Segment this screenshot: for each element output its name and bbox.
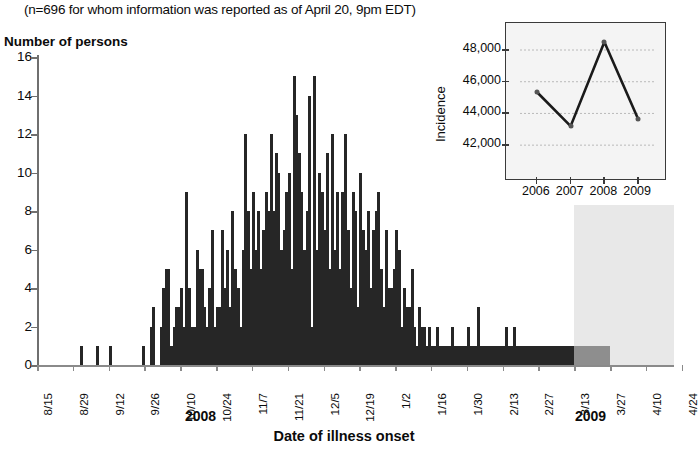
x-axis-tick-label: 9/12 — [114, 393, 126, 415]
x-axis-tick — [252, 365, 254, 371]
inset-y-tick — [502, 112, 509, 114]
inset-y-tick-label: 46,000 — [445, 73, 501, 87]
x-axis-tick-label: 12/5 — [329, 393, 341, 415]
inset-y-axis-title: Incidence — [433, 86, 448, 142]
x-axis-tick-label: 10/24 — [221, 393, 233, 422]
x-axis-tick — [37, 365, 39, 371]
year-label: 2008 — [185, 408, 216, 424]
inset-x-tick — [603, 177, 605, 184]
x-axis-tick — [395, 365, 397, 371]
inset-data-point — [602, 40, 607, 45]
inset-data-point — [534, 90, 539, 95]
inset-y-tick-label: 48,000 — [445, 41, 501, 55]
x-axis-tick — [324, 365, 326, 371]
bar — [109, 346, 112, 365]
x-axis-tick — [359, 365, 361, 371]
x-axis-tick-label: 1/30 — [472, 393, 484, 415]
bar — [80, 346, 83, 365]
x-axis-title: Date of illness onset — [0, 428, 688, 444]
x-axis-tick-label: 4/24 — [687, 393, 699, 415]
x-axis-tick — [431, 365, 433, 371]
x-axis-tick — [574, 365, 576, 371]
x-axis-tick — [538, 365, 540, 371]
x-axis-tick — [610, 365, 612, 371]
inset-y-tick — [502, 49, 509, 51]
x-axis-tick — [646, 365, 648, 371]
x-axis-tick-label: 2/13 — [508, 393, 520, 415]
x-axis-tick-label: 11/7 — [257, 393, 269, 415]
x-axis-line — [37, 365, 674, 367]
bar — [142, 346, 145, 365]
x-axis-tick — [180, 365, 182, 371]
inset-x-tick — [536, 177, 538, 184]
inset-x-tick — [637, 177, 639, 184]
inset-line-path — [506, 23, 664, 178]
inset-y-tick — [502, 144, 509, 146]
x-axis-tick — [144, 365, 146, 371]
x-axis-tick — [467, 365, 469, 371]
x-axis-tick-label: 3/27 — [615, 393, 627, 415]
x-axis-tick-label: 8/29 — [78, 393, 90, 415]
x-axis-tick-label: 9/26 — [149, 393, 161, 415]
inset-y-tick — [502, 81, 509, 83]
x-axis-tick — [216, 365, 218, 371]
inset-y-tick-label: 44,000 — [445, 104, 501, 118]
x-axis-tick-label: 2/27 — [543, 393, 555, 415]
bar — [308, 96, 311, 366]
x-axis-tick — [503, 365, 505, 371]
inset-x-tick-label: 2009 — [617, 184, 657, 198]
year-label: 2009 — [575, 408, 606, 424]
x-axis-tick-label: 1/2 — [400, 393, 412, 409]
bar — [152, 307, 155, 365]
x-axis-tick-label: 1/16 — [436, 393, 448, 415]
x-axis-tick-label: 12/19 — [364, 393, 376, 422]
x-axis-tick — [682, 365, 684, 371]
x-axis-tick-label: 8/15 — [42, 393, 54, 415]
x-axis-tick-label: 4/10 — [651, 393, 663, 415]
inset-y-tick-label: 42,000 — [445, 136, 501, 150]
x-axis-tick — [288, 365, 290, 371]
bar — [607, 346, 610, 365]
inset-x-tick — [570, 177, 572, 184]
inset-incidence-chart — [505, 22, 666, 180]
bar — [96, 346, 99, 365]
x-axis-tick — [73, 365, 75, 371]
x-axis-tick — [109, 365, 111, 371]
inset-data-point — [568, 124, 573, 129]
x-axis-tick-label: 11/21 — [293, 393, 305, 421]
inset-data-point — [636, 116, 641, 121]
